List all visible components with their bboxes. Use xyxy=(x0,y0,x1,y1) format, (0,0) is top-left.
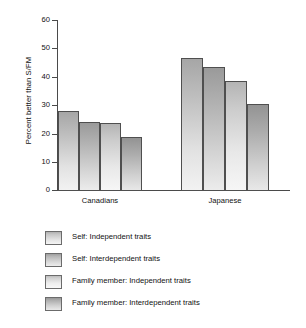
legend-label-family-independent: Family member: Independent traits xyxy=(72,276,191,286)
y-tick-label-30: 30 xyxy=(20,101,50,109)
legend-swatch-icon-self-independent xyxy=(45,231,62,245)
legend-item-family-interdependent: Family member: Interdependent traits xyxy=(45,295,295,317)
legend-label-self-independent: Self: Independent traits xyxy=(72,232,151,242)
legend-swatch-icon-family-independent xyxy=(45,275,62,289)
bar-japanese-family-interdependent xyxy=(247,104,269,191)
legend-swatch-icon-self-interdependent xyxy=(45,253,62,267)
chart-legend: Self: Independent traits Self: Interdepe… xyxy=(45,229,295,317)
legend-label-self-interdependent: Self: Interdependent traits xyxy=(72,254,160,264)
y-tick-label-60: 60 xyxy=(20,16,50,24)
y-tick-label-10: 10 xyxy=(20,158,50,166)
y-tick-label-20: 20 xyxy=(20,130,50,138)
legend-item-self-interdependent: Self: Interdependent traits xyxy=(45,251,295,273)
legend-label-family-interdependent: Family member: Interdependent traits xyxy=(72,298,200,308)
bar-japanese-family-independent xyxy=(225,81,247,191)
y-tick-label-40: 40 xyxy=(20,73,50,81)
y-tick-label-0: 0 xyxy=(20,186,50,194)
bar-japanese-self-interdependent xyxy=(203,67,225,191)
bar-chart-figure: Percent better than S/FM 60 50 40 30 20 … xyxy=(0,0,306,328)
x-axis-group-label-japanese: Japanese xyxy=(185,196,265,205)
legend-item-family-independent: Family member: Independent traits xyxy=(45,273,295,295)
legend-item-self-independent: Self: Independent traits xyxy=(45,229,295,251)
legend-swatch-icon-family-interdependent xyxy=(45,297,62,311)
bar-japanese-self-independent xyxy=(181,58,203,191)
bar-canadians-family-interdependent xyxy=(121,137,142,191)
bar-canadians-family-independent xyxy=(100,123,121,191)
bar-canadians-self-independent xyxy=(58,111,79,191)
x-axis-group-label-canadians: Canadians xyxy=(60,196,140,205)
y-tick-label-50: 50 xyxy=(20,44,50,52)
bar-canadians-self-interdependent xyxy=(79,122,100,191)
plot-area: Percent better than S/FM 60 50 40 30 20 … xyxy=(0,0,306,210)
